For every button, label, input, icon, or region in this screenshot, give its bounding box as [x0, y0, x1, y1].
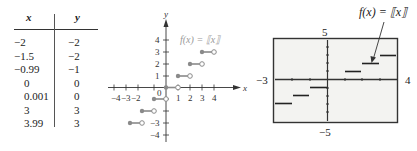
table-cell-x: 0: [24, 78, 30, 89]
svg-text:2: 2: [155, 59, 160, 69]
calculator-ymin-label: −5: [319, 126, 331, 138]
svg-text:−4: −4: [111, 93, 121, 103]
svg-text:3: 3: [200, 93, 205, 103]
table-cell-y: 3: [74, 105, 80, 116]
svg-text:−3: −3: [121, 93, 131, 103]
table-header-rule: [14, 29, 98, 30]
svg-text:1: 1: [176, 93, 181, 103]
y-axis-arrow-icon: [164, 19, 169, 27]
table-column-divider: [54, 14, 55, 127]
svg-text:4: 4: [212, 93, 217, 103]
table-cell-y: −1: [68, 64, 80, 75]
table-cell-x: −2: [14, 37, 26, 48]
y-axis-label: y: [163, 9, 168, 19]
table-cell-y: 0: [74, 91, 80, 102]
x-axis-arrow-icon: [233, 85, 241, 90]
table-cell-x: 0.001: [24, 91, 49, 102]
table-cell-y: −2: [68, 37, 80, 48]
table-cell-x: −0.99: [14, 64, 39, 75]
table-cell-x: 3.99: [24, 118, 43, 129]
svg-text:−4: −4: [150, 130, 160, 140]
table-cell-y: 0: [74, 78, 80, 89]
svg-text:4: 4: [155, 35, 160, 45]
x-axis-label: x: [242, 83, 247, 93]
table-header-x: x: [26, 11, 32, 23]
svg-text:−2: −2: [131, 93, 141, 103]
svg-text:0: 0: [157, 88, 162, 98]
table-cell-x: 3: [24, 105, 30, 116]
svg-text:−3: −3: [150, 118, 160, 128]
label-pointer-arrow-icon: [360, 18, 390, 68]
calculator-xmin-label: −3: [256, 74, 268, 86]
graph-function-label: f(x) = ⟦x⟧: [180, 34, 221, 46]
table-header-y: y: [75, 11, 80, 23]
svg-text:1: 1: [155, 71, 160, 81]
step-function-graph: −4 −3 −2 1 2 3 4 0 4 3 2 1 −3 −4 y x f(x…: [100, 0, 260, 151]
table-cell-x: −1.5: [14, 51, 34, 62]
svg-text:3: 3: [155, 47, 160, 57]
svg-text:2: 2: [188, 93, 193, 103]
table-cell-y: 3: [74, 118, 80, 129]
table-cell-y: −2: [68, 51, 80, 62]
